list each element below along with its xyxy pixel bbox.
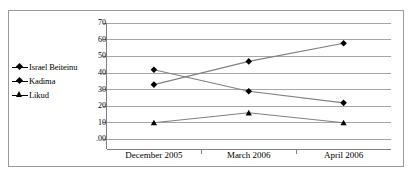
y-tick-label: .00 <box>96 135 106 143</box>
plot-area: 70605040302010.00 December 2005March 200… <box>0 0 413 180</box>
gridlines <box>103 23 391 139</box>
x-axis-labels: December 2005March 2006April 2006 <box>106 150 391 164</box>
data-point-diamond <box>340 100 347 107</box>
y-tick-label: 70 <box>98 19 106 27</box>
y-tick-label: 30 <box>98 86 106 94</box>
data-point-diamond <box>151 81 158 88</box>
y-tick-label: 10 <box>98 119 106 127</box>
y-tick-label: 60 <box>98 36 106 44</box>
x-tick-label: April 2006 <box>324 150 363 161</box>
x-tick-label: March 2006 <box>227 150 271 161</box>
chart-screenshot: Israel Beiteinu Kadima Likud 70605040302… <box>0 0 413 180</box>
series-line <box>154 70 344 103</box>
data-point-diamond <box>245 58 252 65</box>
axis-lines <box>107 23 392 149</box>
x-tick-label: December 2005 <box>125 150 182 161</box>
y-tick-label: 40 <box>98 69 106 77</box>
data-point-diamond <box>245 88 252 95</box>
y-tick-label: 20 <box>98 102 106 110</box>
y-tick-label: 50 <box>98 52 106 60</box>
data-series-layer <box>151 40 347 125</box>
data-point-diamond <box>151 66 158 73</box>
data-point-diamond <box>340 40 347 47</box>
y-axis-labels: 70605040302010.00 <box>86 16 106 144</box>
